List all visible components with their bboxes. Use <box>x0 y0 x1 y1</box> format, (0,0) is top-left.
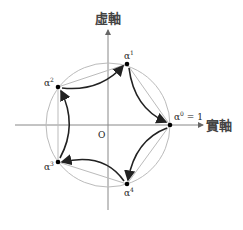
arrow-alpha4-to-alpha3 <box>62 159 124 181</box>
real-axis-label: 實軸 <box>206 118 232 133</box>
root-points <box>56 62 173 187</box>
point-alpha4 <box>125 182 130 187</box>
rotation-arrows <box>60 66 167 181</box>
label-alpha0: α0 = 1 <box>174 110 203 122</box>
label-alpha3: α3 <box>44 160 54 172</box>
point-alpha0 <box>168 123 173 128</box>
point-alpha2 <box>56 85 61 90</box>
imaginary-axis-label: 虛軸 <box>95 11 121 26</box>
arrow-alpha1-to-alpha0 <box>129 68 166 122</box>
arrow-alpha2-to-alpha1 <box>62 66 123 89</box>
label-alpha1: α1 <box>124 49 134 61</box>
point-alpha3 <box>56 160 61 165</box>
label-alpha2: α2 <box>44 76 54 88</box>
complex-plane-diagram: 虛軸 實軸 O α1 α2 α3 α4 α0 = 1 <box>0 0 243 230</box>
label-alpha4: α4 <box>124 186 134 198</box>
origin-label: O <box>98 130 105 140</box>
point-alpha1 <box>125 62 130 67</box>
